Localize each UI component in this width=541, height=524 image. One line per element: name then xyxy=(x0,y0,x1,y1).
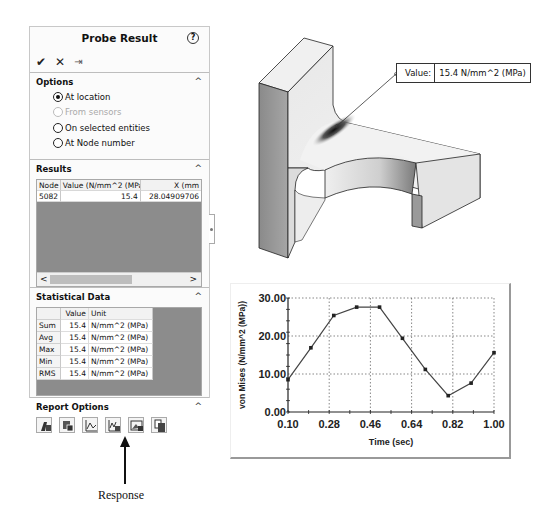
stat-unit: N/mm^2 (MPa) xyxy=(89,368,153,380)
save-to-file-button[interactable] xyxy=(36,417,52,433)
radio-at-location[interactable]: At location xyxy=(36,89,203,105)
table-row: Max 15.4 N/mm^2 (MPa) xyxy=(37,344,201,356)
results-title: Results xyxy=(36,164,203,176)
data-point xyxy=(286,378,290,382)
model-viewport[interactable] xyxy=(240,0,540,270)
column-header-node[interactable]: Node xyxy=(37,180,61,191)
pin-icon[interactable]: ⇥ xyxy=(74,56,82,68)
table-header: Node Value (N/mm^2 (MPa)) X (mm xyxy=(37,180,201,191)
copy-button[interactable] xyxy=(151,417,167,433)
stat-value: 15.4 xyxy=(61,368,89,380)
table-row: Avg 15.4 N/mm^2 (MPa) xyxy=(37,332,201,344)
cancel-x-icon[interactable]: ✕ xyxy=(55,56,65,68)
results-table: Node Value (N/mm^2 (MPa)) X (mm 5082 15.… xyxy=(36,179,202,287)
annotation-arrow xyxy=(124,440,126,484)
x-tick-label: 1.00 xyxy=(483,418,504,430)
response-icon xyxy=(107,419,121,433)
y-tick-label: 30.00 xyxy=(258,292,286,304)
chevron-up-icon[interactable]: ^ xyxy=(194,401,202,411)
save-as-sensor-icon xyxy=(61,419,75,433)
column-header-blank xyxy=(37,308,61,320)
stat-value: 15.4 xyxy=(61,344,89,356)
y-tick-label: 20.00 xyxy=(258,330,286,342)
data-point xyxy=(401,336,405,340)
panel-toolbar: ✔ ✕ ⇥ xyxy=(30,51,209,73)
stat-unit: N/mm^2 (MPa) xyxy=(89,344,153,356)
stat-unit: N/mm^2 (MPa) xyxy=(89,356,153,368)
stat-label: Avg xyxy=(37,332,61,344)
column-header-value: Value xyxy=(61,308,89,320)
scroll-right-icon[interactable]: > xyxy=(189,274,197,284)
response-button[interactable] xyxy=(105,417,121,433)
radio-button xyxy=(53,107,63,117)
table-header: Value Unit xyxy=(37,308,201,320)
radio-at-node-number[interactable]: At Node number xyxy=(36,136,203,152)
table-row: Min 15.4 N/mm^2 (MPa) xyxy=(37,356,201,368)
radio-button[interactable] xyxy=(53,92,63,102)
column-header-unit: Unit xyxy=(89,308,153,320)
y-tick-label: 0.00 xyxy=(265,406,286,418)
stat-value: 15.4 xyxy=(61,356,89,368)
stat-label: Min xyxy=(37,356,61,368)
stat-value: 15.4 xyxy=(61,320,89,332)
plot-icon xyxy=(84,419,98,433)
x-tick-label: 0.10 xyxy=(277,418,298,430)
radio-label: From sensors xyxy=(65,107,121,117)
options-section: Options ^ At location From sensors On se… xyxy=(30,73,209,160)
table-row[interactable]: 5082 15.4 28.04909706 xyxy=(37,191,201,202)
column-header-x[interactable]: X (mm xyxy=(141,180,201,191)
horizontal-scrollbar[interactable]: < > xyxy=(37,272,201,286)
stat-value: 15.4 xyxy=(61,332,89,344)
panel-title: Probe Result xyxy=(30,32,209,44)
image-button[interactable] xyxy=(128,417,144,433)
x-tick-label: 0.82 xyxy=(442,418,463,430)
data-point xyxy=(492,351,496,355)
stat-unit: N/mm^2 (MPa) xyxy=(89,320,153,332)
cell-value: 15.4 xyxy=(61,191,141,202)
radio-label: On selected entities xyxy=(65,123,150,133)
column-header-value[interactable]: Value (N/mm^2 (MPa)) xyxy=(61,180,141,191)
chevron-up-icon[interactable]: ^ xyxy=(194,76,202,86)
x-tick-label: 0.28 xyxy=(318,418,339,430)
stat-label: Max xyxy=(37,344,61,356)
table-row: Sum 15.4 N/mm^2 (MPa) xyxy=(37,320,201,332)
cell-x: 28.04909706 xyxy=(141,191,201,202)
save-as-sensor-button[interactable] xyxy=(59,417,75,433)
report-options-title: Report Options xyxy=(36,402,203,414)
ok-check-icon[interactable]: ✔ xyxy=(36,56,46,68)
help-icon[interactable]: ? xyxy=(187,32,199,44)
results-section: Results ^ Node Value (N/mm^2 (MPa)) X (m… xyxy=(30,160,209,288)
radio-on-selected-entities[interactable]: On selected entities xyxy=(36,120,203,136)
scrollbar-thumb[interactable] xyxy=(50,275,132,284)
x-tick-label: 0.46 xyxy=(360,418,381,430)
statistical-data-title: Statistical Data xyxy=(36,292,203,304)
chevron-up-icon[interactable]: ^ xyxy=(194,163,202,173)
x-axis-label: Time (sec) xyxy=(369,437,413,447)
image-icon xyxy=(130,419,144,433)
chevron-up-icon[interactable]: ^ xyxy=(194,291,202,301)
value-key: Value: xyxy=(397,64,435,82)
statistical-data-section: Statistical Data ^ Value Unit Sum 15.4 N… xyxy=(30,288,209,398)
radio-label: At Node number xyxy=(65,138,135,148)
radio-button[interactable] xyxy=(53,123,63,133)
panel-header: Probe Result ? xyxy=(30,27,209,51)
statistics-table: Value Unit Sum 15.4 N/mm^2 (MPa) Avg 15.… xyxy=(36,307,202,396)
scroll-left-icon[interactable]: < xyxy=(40,274,48,284)
report-options-buttons xyxy=(36,417,206,438)
radio-button[interactable] xyxy=(53,138,63,148)
data-point xyxy=(309,346,313,350)
data-point xyxy=(469,381,473,385)
y-axis-label: von Mises (N/mm^2 (MPa)) xyxy=(237,301,247,409)
data-point xyxy=(355,305,359,309)
data-point xyxy=(446,394,450,398)
line-chart: 0.0010.0020.0030.000.100.280.460.640.821… xyxy=(231,284,512,460)
save-to-file-icon xyxy=(38,419,52,433)
data-point xyxy=(378,305,382,309)
data-point xyxy=(332,314,336,318)
radio-from-sensors: From sensors xyxy=(36,105,203,121)
table-row: RMS 15.4 N/mm^2 (MPa) xyxy=(37,368,201,380)
probe-result-panel: Probe Result ? ✔ ✕ ⇥ Options ^ At locati… xyxy=(29,26,210,398)
panel-collapse-handle[interactable] xyxy=(209,214,215,244)
value-text: 15.4 N/mm^2 (MPa) xyxy=(435,64,530,82)
plot-button[interactable] xyxy=(82,417,98,433)
